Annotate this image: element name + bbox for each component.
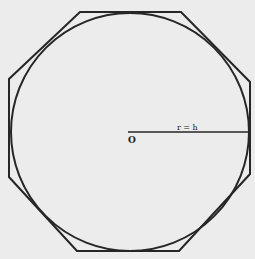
radius-label: r = h [177,123,198,132]
center-label: O [128,135,136,145]
octagon-circle-diagram: O r = h [0,0,255,259]
background [0,0,255,259]
diagram-canvas: O r = h [0,0,255,259]
